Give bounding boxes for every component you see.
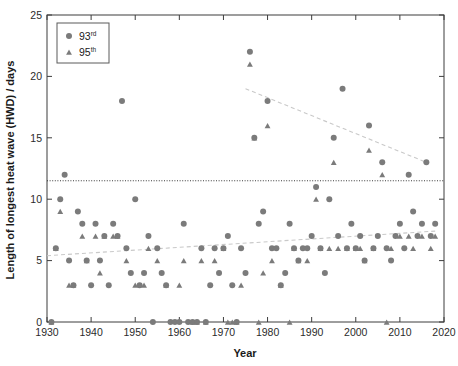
data-point-triangle [326,246,332,251]
data-point-circle [273,245,279,251]
upper-trend-line [246,89,427,163]
data-point-circle [366,123,372,129]
data-point-triangle [247,61,253,66]
data-point-circle [265,98,271,104]
data-point-triangle [269,258,275,263]
data-point-circle [432,221,438,227]
data-point-circle [287,221,293,227]
data-point-triangle [406,233,412,238]
y-tick-label: 15 [30,132,42,144]
data-point-triangle [79,233,85,238]
data-point-circle [62,172,68,178]
data-point-triangle [366,147,372,152]
data-point-circle [66,258,72,264]
data-point-circle [212,245,218,251]
x-tick-label: 2010 [388,326,412,338]
y-tick-label: 20 [30,70,42,82]
data-point-circle [110,221,116,227]
data-point-circle [388,258,394,264]
data-point-circle [397,221,403,227]
data-point-triangle [335,246,341,251]
data-point-circle [348,221,354,227]
data-point-circle [88,282,94,288]
data-point-triangle [260,270,266,275]
data-point-circle [309,233,315,239]
data-point-triangle [212,258,218,263]
data-point-circle [331,135,337,141]
data-point-circle [154,245,160,251]
data-point-circle [335,233,341,239]
y-tick-label: 25 [30,9,42,21]
y-axis-title: Length of longest heat wave (HWD) / days [4,61,16,280]
data-point-circle [159,270,165,276]
data-point-circle [304,245,310,251]
data-point-circle [256,221,262,227]
data-point-circle [216,270,222,276]
legend-ordinal-suffix: rd [91,30,97,37]
data-point-circle [132,196,138,202]
data-point-circle [243,270,249,276]
x-tick-label: 1980 [256,326,280,338]
data-point-triangle [379,172,385,177]
data-point-circle [93,221,99,227]
annotation-lines [47,89,444,256]
data-point-circle [229,282,235,288]
data-point-triangle [428,246,434,251]
data-point-circle [128,270,134,276]
data-point-circle [247,49,253,55]
data-point-circle [238,245,244,251]
data-point-circle [57,196,63,202]
data-point-circle [198,245,204,251]
data-point-circle [357,233,363,239]
x-axis-title: Year [233,347,257,359]
y-tick-label: 5 [36,254,42,266]
data-point-triangle [57,209,63,214]
data-point-triangle [238,283,244,288]
data-point-triangle [198,258,204,263]
data-point-circle [419,221,425,227]
data-point-circle [410,208,416,214]
chart-figure: 0510152025 19301940195019601970198019902… [0,0,458,366]
data-point-triangle [410,246,416,251]
data-point-circle [401,245,407,251]
data-point-circle [97,258,103,264]
data-point-circle [141,270,147,276]
x-tick-label: 1950 [124,326,148,338]
x-tick-label: 2000 [344,326,368,338]
data-point-circle [119,98,125,104]
data-point-circle [225,233,231,239]
legend: 93rd95th [57,23,109,63]
data-point-triangle [265,123,271,128]
legend-ordinal-suffix: th [91,46,97,53]
data-point-triangle [304,258,310,263]
data-point-triangle [93,233,99,238]
x-tick-label: 1930 [35,326,59,338]
data-point-triangle [146,246,152,251]
data-point-circle [260,208,266,214]
data-point-circle [326,196,332,202]
data-point-triangle [181,258,187,263]
data-point-triangle [176,283,182,288]
series-93rd [48,49,438,325]
data-point-triangle [313,197,319,202]
data-point-triangle [123,258,129,263]
x-tick-label: 1960 [168,326,192,338]
data-point-circle [423,159,429,165]
data-point-circle [106,282,112,288]
y-tick-label: 10 [30,193,42,205]
data-point-circle [207,282,213,288]
y-axis-tick-labels: 0510152025 [30,9,42,328]
data-markers [48,49,438,325]
x-tick-label: 2020 [432,326,456,338]
data-point-circle [282,270,288,276]
data-point-circle [75,208,81,214]
data-point-circle [322,270,328,276]
data-point-triangle [97,270,103,275]
data-point-circle [340,86,346,92]
data-point-circle [313,184,319,190]
data-point-circle [406,172,412,178]
data-point-circle [66,33,72,39]
data-point-circle [150,319,156,325]
x-axis-tick-labels: 1930194019501960197019801990200020102020 [35,326,456,338]
data-point-triangle [154,258,160,263]
